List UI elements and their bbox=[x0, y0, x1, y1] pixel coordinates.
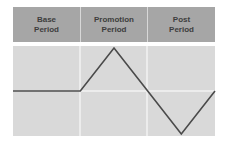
chart-svg bbox=[0, 0, 230, 144]
promotion-effect-chart: Base Period Promotion Period Post Period bbox=[0, 0, 230, 144]
